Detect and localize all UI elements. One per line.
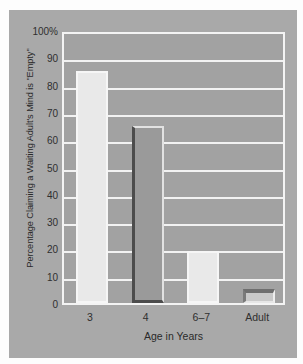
bar-6-7 [187,251,219,303]
bar-Adult [243,289,275,303]
y-axis-tick-label: 60 [24,136,58,146]
y-axis-tick-label: 80 [24,82,58,92]
y-axis-tick-label: 20 [24,245,58,255]
y-axis-tick-label: 0 [24,300,58,310]
bar-3 [76,71,108,303]
x-axis-tick-labels: 346–7Adult [62,310,285,324]
y-axis-tick-label: 100% [24,27,58,37]
figure: Percentage Claiming a Waiting Adult's Mi… [0,0,303,364]
x-axis-tick-label: Adult [217,310,297,324]
y-axis-tick-label: 40 [24,191,58,201]
y-axis-tick-label: 30 [24,218,58,228]
y-axis-tick-label: 70 [24,109,58,119]
bar-4 [132,126,164,303]
plot-area [62,32,285,305]
y-axis-tick-label: 50 [24,164,58,174]
bar-series [64,34,283,303]
y-axis-tick-label: 10 [24,273,58,283]
x-axis-title: Age in Years [62,330,285,342]
y-axis-tick-label: 90 [24,54,58,64]
